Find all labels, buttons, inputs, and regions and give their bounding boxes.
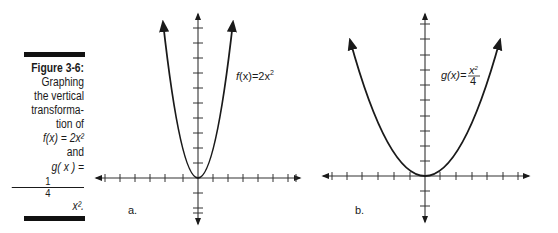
svg-text:4: 4 [470, 75, 476, 87]
graphs-canvas: f(x)=2x2 a. [0, 0, 558, 233]
graph-a-curve-label: f(x)=2x2 [236, 69, 274, 82]
graph-b-curve-label: g(x)= [441, 69, 467, 81]
graph-a: f(x)=2x2 a. [96, 14, 300, 224]
graph-b-curve-label-fraction: x2 4 [468, 64, 480, 87]
graph-a-panel-label: a. [128, 204, 137, 216]
graph-b: g(x)= x2 4 b. [323, 14, 529, 222]
graph-b-panel-label: b. [355, 204, 364, 216]
